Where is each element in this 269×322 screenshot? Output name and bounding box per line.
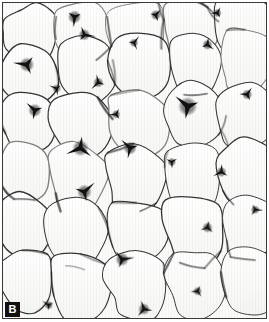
membrane-segment <box>227 29 244 30</box>
membrane-segment <box>112 202 136 203</box>
micrograph-image <box>3 3 266 318</box>
micrograph-frame <box>2 2 267 319</box>
image-description: Dense field of large polygonal unilocula… <box>0 0 1 1</box>
cell-r4-c1 <box>3 141 49 201</box>
adipocyte-layer <box>3 3 266 318</box>
figure-root: B Dense field of large polygonal unilocu… <box>0 0 269 322</box>
panel-label-b: B <box>5 302 20 317</box>
